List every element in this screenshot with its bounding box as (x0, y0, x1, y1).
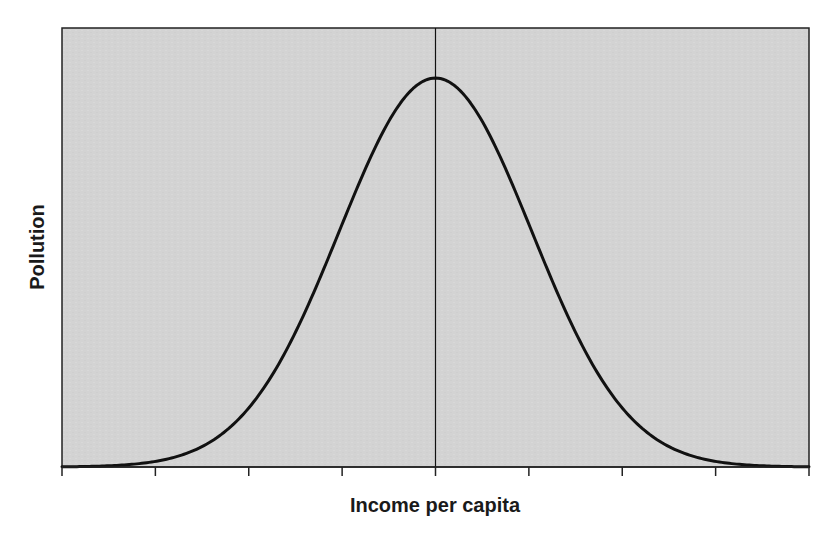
x-axis-ticks (62, 467, 809, 476)
chart: Income per capita Pollution (0, 0, 835, 544)
x-axis-title: Income per capita (350, 494, 521, 516)
y-axis-title: Pollution (26, 204, 48, 290)
